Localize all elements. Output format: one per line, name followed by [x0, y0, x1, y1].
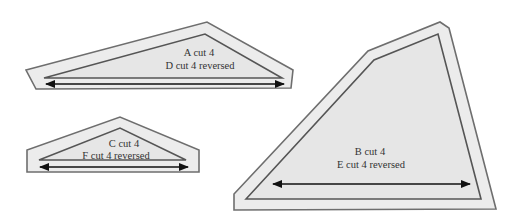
piece-a-label-1: A cut 4 — [184, 47, 215, 58]
piece-c-label-2: F cut 4 reversed — [82, 150, 150, 161]
piece-b: B cut 4 E cut 4 reversed — [234, 22, 496, 210]
piece-a: A cut 4 D cut 4 reversed — [26, 22, 293, 89]
piece-c: C cut 4 F cut 4 reversed — [27, 117, 199, 172]
pattern-diagram: A cut 4 D cut 4 reversed C cut 4 F cut 4… — [0, 0, 516, 224]
piece-c-label-1: C cut 4 — [109, 138, 140, 149]
piece-b-label-2: E cut 4 reversed — [337, 159, 406, 170]
piece-a-label-2: D cut 4 reversed — [165, 60, 235, 71]
piece-b-label-1: B cut 4 — [355, 146, 386, 157]
